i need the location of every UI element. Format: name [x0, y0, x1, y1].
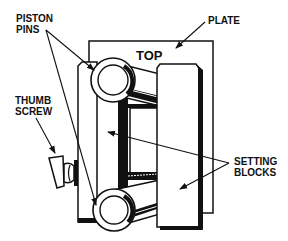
setting-block-right	[157, 64, 203, 230]
piston-pin-bottom	[93, 189, 135, 231]
plate-top-marking: TOP	[136, 48, 163, 63]
label-plate-text: PLATE	[208, 15, 240, 26]
label-piston-pins-line2: PINS	[16, 24, 40, 35]
label-setting-blocks-line1: SETTING	[234, 156, 278, 167]
label-thumb-screw-line2: SCREW	[15, 106, 53, 117]
label-piston-pins-line1: PISTON	[16, 13, 53, 24]
label-setting-blocks-line2: BLOCKS	[234, 167, 277, 178]
leader-piston-pin-top	[46, 30, 94, 70]
thumb-screw	[49, 156, 78, 188]
leader-thumb-screw	[36, 118, 55, 153]
diagram-canvas: TOP	[0, 0, 288, 241]
label-thumb-screw: THUMB SCREW	[15, 95, 55, 153]
label-thumb-screw-line1: THUMB	[15, 95, 51, 106]
piston-pin-top	[91, 58, 135, 102]
